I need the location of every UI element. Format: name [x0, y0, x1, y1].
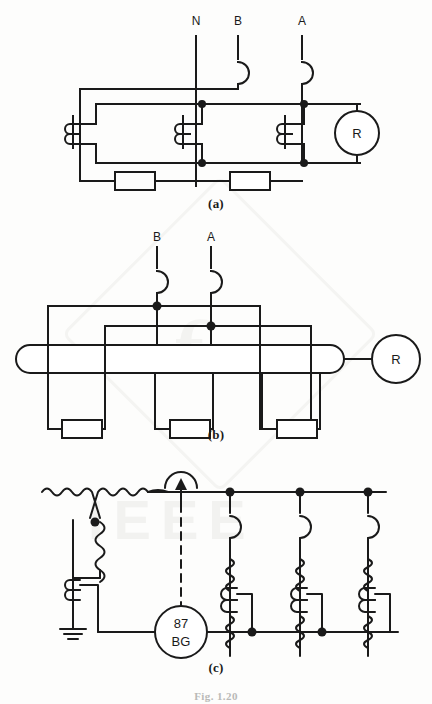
junction-dot	[198, 159, 206, 167]
junction-dot	[300, 100, 308, 108]
linear-coupler-core	[16, 345, 344, 373]
circuit-diagram-a: R N B A	[0, 0, 432, 228]
panel-b-caption: (b)	[0, 427, 432, 443]
junction-dot-group-c	[91, 488, 373, 637]
diagram-panel-b: R B A	[0, 228, 432, 460]
resistor-1	[115, 172, 155, 190]
circuit-breaker-b-arc	[238, 62, 249, 84]
neutral-ct-secondary-lead	[80, 585, 98, 632]
junction-dot	[153, 302, 162, 311]
trip-arrow-head	[175, 478, 187, 490]
relay-87bg-label-bottom: BG	[172, 634, 191, 649]
phase-label-b-panel-b: B	[153, 230, 161, 244]
feeder2-coil-lead	[307, 594, 322, 632]
junction-dot	[226, 488, 235, 497]
junction-dot	[318, 628, 327, 637]
circuit-diagram-b: R B A	[0, 228, 432, 460]
junction-dot	[300, 159, 308, 167]
figure-number-label: Fig. 1.20	[0, 690, 432, 702]
feeder2-breaker-arc	[300, 516, 311, 538]
circuit-breaker-a-arc	[302, 62, 313, 84]
junction-dot	[296, 488, 305, 497]
junction-dot	[198, 100, 206, 108]
phase-label-b: B	[234, 14, 242, 28]
feeder1-coil-lead	[237, 594, 252, 632]
diagram-panel-a: R N B A	[0, 0, 432, 228]
figure-page: € IEEE	[0, 0, 432, 704]
circuit-breaker-b-arc-b	[157, 271, 168, 293]
phase-label-a-panel-b: A	[207, 230, 215, 244]
ct1-lead-top	[80, 104, 96, 124]
feeder1-breaker-arc	[230, 516, 241, 538]
panel-a-caption: (a)	[0, 196, 432, 212]
feeder3-coil-lead	[375, 594, 390, 632]
junction-dot	[91, 518, 100, 527]
ct1-lead-bottom	[80, 144, 96, 163]
relay-r-label-b: R	[391, 352, 400, 367]
junction-dot	[248, 628, 257, 637]
junction-dot	[207, 322, 216, 331]
circuit-breaker-a-arc-b	[211, 271, 222, 293]
relay-87bg-label-top: 87	[174, 616, 188, 631]
relay-87bg-circle[interactable]	[155, 606, 207, 658]
phase-label-n: N	[192, 14, 201, 28]
feeder3-breaker-arc	[368, 516, 379, 538]
panel-c-caption: (c)	[0, 660, 432, 676]
phase-label-a: A	[298, 14, 306, 28]
resistor-2	[230, 172, 270, 190]
junction-dot	[364, 488, 373, 497]
relay-r-label-a: R	[352, 126, 361, 141]
